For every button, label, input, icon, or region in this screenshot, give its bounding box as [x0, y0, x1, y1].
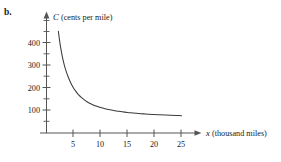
x-axis-title: x (thousand miles): [205, 128, 267, 138]
x-tick-labels: 5 10 15 20 25: [71, 140, 185, 149]
x-tick-label: 15: [123, 140, 131, 149]
y-axis: [44, 12, 50, 134]
chart-canvas: 400 300 200 100 5 10 15 20 25 C (cents p…: [0, 0, 281, 162]
x-tick-label: 25: [177, 140, 185, 149]
x-tick-label: 5: [71, 140, 75, 149]
y-axis-title: C (cents per mile): [53, 12, 113, 22]
y-tick-label: 300: [28, 61, 40, 70]
y-tick-labels: 400 300 200 100: [28, 39, 40, 116]
x-axis: [40, 130, 202, 136]
y-tick-label: 200: [28, 84, 40, 93]
y-tick-label: 400: [28, 39, 40, 48]
y-tick-label: 100: [28, 106, 40, 115]
figure-panel: b.: [0, 0, 281, 162]
x-tick-label: 10: [96, 140, 104, 149]
x-tick-label: 20: [150, 140, 158, 149]
y-axis-title-units: (cents per mile): [61, 13, 113, 22]
x-axis-title-units: (thousand miles): [212, 129, 267, 138]
x-axis-title-var: x: [205, 128, 210, 138]
y-axis-title-var: C: [53, 12, 59, 22]
data-curve-cost-per-mile: [58, 31, 181, 115]
